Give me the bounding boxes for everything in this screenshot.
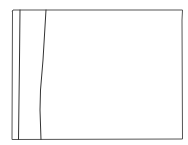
left-strip-divider (19, 10, 21, 140)
wireframe-sketch (0, 0, 188, 145)
sidebar-divider (40, 10, 46, 140)
outer-frame (12, 10, 183, 140)
